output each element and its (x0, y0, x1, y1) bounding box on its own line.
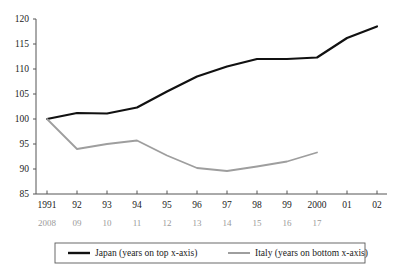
x-axis-bottom-tick-label: 12 (163, 218, 172, 228)
y-axis-tick-label: 85 (20, 189, 30, 199)
x-axis-top-tick-label: 97 (222, 200, 232, 210)
y-axis-tick-label: 120 (15, 14, 30, 24)
x-axis-bottom-tick-label: 09 (73, 218, 83, 228)
legend-item-label: Italy (years on bottom x-axis) (255, 248, 368, 259)
x-axis-top-tick-label: 94 (132, 200, 142, 210)
x-axis-top-tick-label: 99 (282, 200, 292, 210)
x-axis-bottom-tick-label: 10 (103, 218, 113, 228)
series-line-italy (47, 119, 317, 171)
x-axis-top-tick-label: 1991 (38, 200, 57, 210)
x-axis-top-tick-label: 92 (72, 200, 82, 210)
chart-legend: Japan (years on top x-axis)Italy (years … (55, 243, 368, 263)
x-axis-bottom-labels: 2008091011121314151617 (38, 218, 322, 228)
x-axis-top-tick-label: 93 (102, 200, 112, 210)
x-axis-bottom-tick-label: 17 (313, 218, 323, 228)
x-axis-bottom-tick-label: 13 (193, 218, 203, 228)
x-axis-bottom-tick-label: 14 (223, 218, 233, 228)
x-axis-top-tick-label: 02 (372, 200, 382, 210)
x-axis-bottom-tick-label: 15 (253, 218, 263, 228)
y-axis-tick-label: 110 (15, 64, 29, 74)
legend-item-label: Japan (years on top x-axis) (95, 248, 197, 259)
x-axis-top-labels: 1991929394959697989920000102 (38, 200, 383, 210)
line-chart: 859095100105110115120 199192939495969798… (0, 0, 416, 275)
x-axis-top-tick-label: 01 (342, 200, 352, 210)
y-axis-tick-label: 100 (15, 114, 30, 124)
series-layer (47, 27, 377, 172)
chart-container: 859095100105110115120 199192939495969798… (0, 0, 416, 275)
y-axis: 859095100105110115120 (15, 14, 36, 199)
x-axis-top-tick-label: 96 (192, 200, 202, 210)
y-axis-tick-label: 90 (20, 164, 30, 174)
x-axis-top-tick-label: 98 (252, 200, 262, 210)
x-axis (36, 191, 387, 195)
x-axis-bottom-tick-label: 11 (133, 218, 142, 228)
series-line-japan (47, 27, 377, 120)
x-axis-bottom-tick-label: 2008 (38, 218, 57, 228)
x-axis-bottom-tick-label: 16 (283, 218, 293, 228)
y-axis-tick-label: 95 (20, 139, 30, 149)
x-axis-top-tick-label: 2000 (308, 200, 327, 210)
y-axis-tick-label: 105 (15, 89, 30, 99)
x-axis-top-tick-label: 95 (162, 200, 172, 210)
y-axis-tick-label: 115 (15, 39, 29, 49)
